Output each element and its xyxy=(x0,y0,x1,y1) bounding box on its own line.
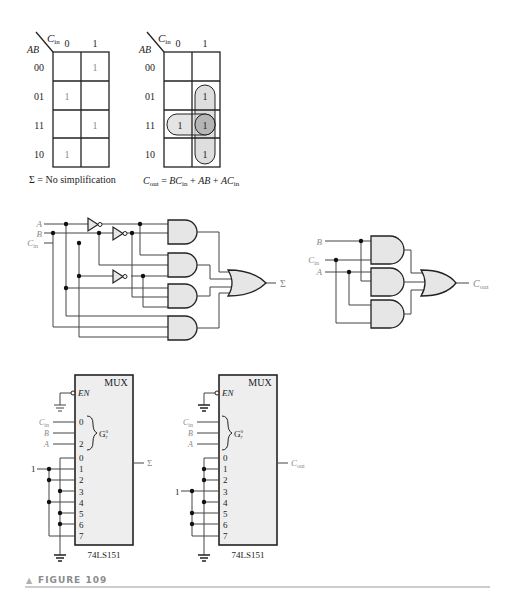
kmap-row-header: 11 xyxy=(34,120,44,131)
mux-title: MUX xyxy=(248,377,272,388)
mux-output-label: Cout xyxy=(291,458,305,469)
and-gate-1 xyxy=(168,220,197,244)
kmap-cell: 1 xyxy=(178,120,183,131)
input-label-b: B xyxy=(37,229,43,239)
caption-marker-icon: ▲ xyxy=(26,576,33,585)
and-gate-bcin xyxy=(371,236,404,264)
figure-caption-text: FIGURE 109 xyxy=(38,575,107,585)
input-label-cin: Cin xyxy=(27,238,38,249)
kmap-row-var: AB xyxy=(138,44,151,55)
select-label-a: A xyxy=(187,440,193,449)
inverter-a xyxy=(88,218,98,231)
select-pin: 2 xyxy=(79,439,84,449)
kmap-row-header: 11 xyxy=(145,120,155,131)
group-label: G07 xyxy=(99,429,109,440)
ground-icon xyxy=(54,555,66,561)
enable-bubble xyxy=(215,391,219,395)
kmap-row-header: 10 xyxy=(34,149,44,160)
kmap-row-header: 01 xyxy=(34,91,44,102)
part-number: 74LS151 xyxy=(87,550,120,560)
kmap-col-var: Cin xyxy=(158,32,171,46)
svg-text:3: 3 xyxy=(79,487,84,497)
svg-text:5: 5 xyxy=(223,509,228,519)
and-gate-2 xyxy=(168,253,197,277)
or-gate-sum xyxy=(228,270,266,296)
svg-text:2: 2 xyxy=(223,475,228,485)
select-label-b: B xyxy=(44,429,49,438)
kmap-row-header: 00 xyxy=(145,62,155,73)
input-label-a: A xyxy=(316,267,323,277)
kmap-cout: Cin AB 0 1 00 01 11 10 1 1 1 1 Cout = BC… xyxy=(138,32,240,188)
part-number: 74LS151 xyxy=(231,550,264,560)
enable-bubble xyxy=(71,391,75,395)
kmap-row-header: 00 xyxy=(34,62,44,73)
inverter-b xyxy=(113,227,123,240)
mux-enable-label: EN xyxy=(221,388,234,398)
svg-text:4: 4 xyxy=(79,498,84,508)
kmap-row-header: 10 xyxy=(145,149,155,160)
and-gate-ab xyxy=(371,268,404,296)
kmap-cell: 1 xyxy=(203,91,208,102)
kmap-cell: 1 xyxy=(93,120,98,131)
mux-output-label: Σ xyxy=(147,458,152,468)
kmap-cell: 1 xyxy=(65,91,70,102)
svg-text:1: 1 xyxy=(79,464,84,474)
select-label-b: B xyxy=(188,429,193,438)
and-gate-3 xyxy=(168,284,197,308)
kmap-col-var: Cin xyxy=(47,32,60,46)
input-label-a: A xyxy=(36,219,43,229)
kmap-cell: 1 xyxy=(203,149,208,160)
cout-circuit: B Cin A Cout xyxy=(308,236,488,328)
or-gate-cout xyxy=(421,270,456,296)
svg-text:3: 3 xyxy=(223,487,228,497)
select-pin: 0 xyxy=(79,417,84,427)
svg-text:6: 6 xyxy=(79,520,84,530)
select-label-cin: Cin xyxy=(183,418,193,428)
and-gate-4 xyxy=(168,316,197,340)
mux-body xyxy=(75,375,133,545)
kmap-sum-result: Σ = No simplification xyxy=(29,174,116,185)
kmap-cout-result: Cout = BCin + AB + ACin xyxy=(143,175,240,188)
mux-cout: MUX EN Cin B A G07 0 1 2 3 4 5 6 7 1 xyxy=(175,375,305,561)
mux-body xyxy=(219,375,277,545)
select-label-cin: Cin xyxy=(39,418,49,428)
mux-enable-label: EN xyxy=(77,388,90,398)
kmap-cell: 1 xyxy=(65,149,70,160)
svg-text:4: 4 xyxy=(223,498,228,508)
svg-text:7: 7 xyxy=(223,531,228,541)
kmap-sum: Cin AB 0 1 00 01 11 10 1 1 1 1 Σ = No si… xyxy=(26,32,116,185)
select-label-a: A xyxy=(43,440,49,449)
and-gate-acin xyxy=(371,300,404,328)
ground-icon xyxy=(54,405,66,411)
kmap-cell: 1 xyxy=(93,62,98,73)
inverter-cin xyxy=(113,270,123,283)
logic-one-label: 1 xyxy=(31,464,36,474)
group-label: G07 xyxy=(234,429,244,440)
kmap-row-var: AB xyxy=(26,44,39,55)
svg-text:2: 2 xyxy=(79,475,84,485)
inverter-bubble xyxy=(98,223,102,227)
svg-text:6: 6 xyxy=(223,520,228,530)
input-label-cin: Cin xyxy=(308,255,319,266)
kmap-col-header: 0 xyxy=(176,38,181,49)
svg-text:5: 5 xyxy=(79,509,84,519)
mux-sum: MUX EN Cin B A 0 2 G07 0 1 2 3 4 5 6 7 1 xyxy=(31,375,152,561)
ground-icon xyxy=(198,555,210,561)
svg-text:1: 1 xyxy=(223,464,228,474)
figure-canvas: Cin AB 0 1 00 01 11 10 1 1 1 1 Σ = No si… xyxy=(0,0,513,608)
svg-text:0: 0 xyxy=(79,453,84,463)
input-label-b: B xyxy=(317,237,323,247)
logic-one-label: 1 xyxy=(175,487,180,497)
figure-caption: ▲ FIGURE 109 xyxy=(25,575,490,587)
svg-text:7: 7 xyxy=(79,531,84,541)
kmap-col-header: 1 xyxy=(203,38,208,49)
kmap-col-header: 1 xyxy=(93,38,98,49)
output-label-cout: Cout xyxy=(473,278,489,291)
ground-icon xyxy=(198,405,210,411)
svg-text:0: 0 xyxy=(223,453,228,463)
mux-title: MUX xyxy=(104,377,128,388)
kmap-cell: 1 xyxy=(203,120,208,131)
sum-circuit: A B Cin xyxy=(27,218,286,340)
kmap-row-header: 01 xyxy=(145,91,155,102)
kmap-col-header: 0 xyxy=(65,38,70,49)
